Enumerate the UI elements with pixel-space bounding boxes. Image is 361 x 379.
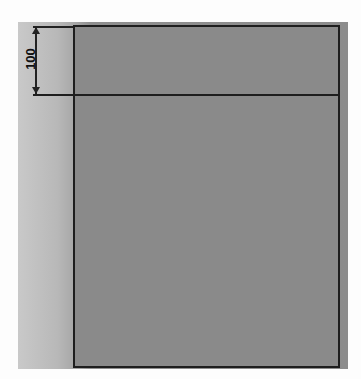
outer-rectangle (73, 25, 340, 368)
arrow-up-icon (32, 27, 40, 34)
arrow-down-icon (32, 87, 40, 94)
dimension-label: 100 (24, 39, 38, 79)
top-band-divider-line (33, 94, 338, 96)
diagram-canvas: 100 (0, 0, 361, 379)
